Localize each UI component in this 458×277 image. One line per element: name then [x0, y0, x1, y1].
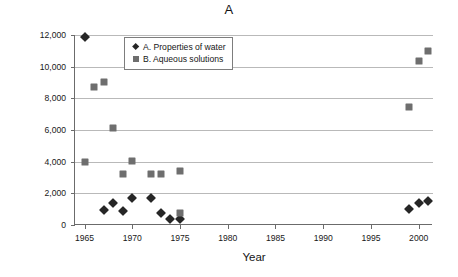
data-point-diamond: [99, 205, 109, 215]
data-point-diamond: [80, 32, 90, 42]
data-point-square: [406, 104, 413, 111]
diamond-marker-icon: [130, 44, 142, 49]
x-tick-label: 1970: [123, 233, 142, 243]
x-tick-label: 2000: [409, 233, 428, 243]
data-point-square: [177, 167, 184, 174]
x-tick-mark: [228, 225, 229, 229]
y-tick-label: 10,000: [40, 62, 66, 72]
y-tick-label: 8,000: [44, 93, 66, 103]
x-tick-mark: [132, 225, 133, 229]
data-point-square: [177, 209, 184, 216]
x-tick-mark: [371, 225, 372, 229]
x-tick-mark: [275, 225, 276, 229]
data-point-diamond: [146, 193, 156, 203]
data-point-square: [148, 171, 155, 178]
data-point-square: [81, 158, 88, 165]
x-axis-label: Year: [75, 251, 433, 263]
x-tick-mark: [323, 225, 324, 229]
y-tick-label: 6,000: [44, 125, 66, 135]
data-point-diamond: [108, 198, 118, 208]
gridline: [75, 98, 433, 99]
x-tick-label: 1985: [266, 233, 285, 243]
gridline: [75, 130, 433, 131]
data-point-diamond: [423, 196, 433, 206]
data-point-diamond: [414, 198, 424, 208]
data-point-square: [110, 125, 117, 132]
legend-item: B. Aqueous solutions: [130, 53, 226, 65]
x-tick-mark: [85, 225, 86, 229]
data-point-square: [157, 171, 164, 178]
y-tick-label: 4,000: [44, 157, 66, 167]
data-point-diamond: [127, 193, 137, 203]
chart-title: A: [0, 2, 458, 17]
y-tick-label: 12,000: [40, 30, 66, 40]
x-tick-mark: [180, 225, 181, 229]
data-point-diamond: [156, 208, 166, 218]
y-tick-mark: [71, 162, 75, 163]
x-tick-label: 1965: [75, 233, 94, 243]
square-marker-icon: [130, 56, 142, 61]
y-tick-mark: [71, 193, 75, 194]
y-tick-label: 0: [61, 220, 66, 230]
x-tick-label: 1990: [314, 233, 333, 243]
data-point-diamond: [404, 204, 414, 214]
y-tick-mark: [71, 98, 75, 99]
data-point-square: [415, 58, 422, 65]
data-point-square: [425, 47, 432, 54]
data-point-square: [119, 170, 126, 177]
y-tick-mark: [71, 130, 75, 131]
x-tick-mark: [419, 225, 420, 229]
y-tick-mark: [71, 35, 75, 36]
legend-label: B. Aqueous solutions: [143, 54, 223, 64]
x-tick-label: 1995: [361, 233, 380, 243]
data-point-square: [129, 157, 136, 164]
legend-item: A. Properties of water: [130, 41, 226, 53]
y-tick-mark: [71, 225, 75, 226]
x-tick-label: 1980: [218, 233, 237, 243]
chart-legend: A. Properties of waterB. Aqueous solutio…: [124, 37, 233, 70]
data-point-diamond: [118, 206, 128, 216]
data-point-square: [100, 78, 107, 85]
y-tick-label: 2,000: [44, 188, 66, 198]
x-tick-label: 1975: [170, 233, 189, 243]
scatter-chart-figure: A Funding ($ thousands) 02,0004,0006,000…: [0, 0, 458, 277]
gridline: [75, 35, 433, 36]
data-point-square: [91, 84, 98, 91]
gridline: [75, 193, 433, 194]
legend-label: A. Properties of water: [143, 42, 226, 52]
y-tick-mark: [71, 67, 75, 68]
